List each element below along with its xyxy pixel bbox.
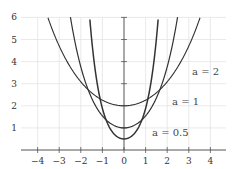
y-tick-label: 3: [11, 79, 17, 89]
y-tick-label: 2: [11, 101, 17, 111]
x-tick-label: 4: [208, 156, 214, 166]
y-tick-label: 4: [11, 57, 17, 67]
x-tick-label: −1: [96, 156, 109, 166]
label-a1: a = 1: [172, 96, 199, 107]
y-tick-label: 6: [11, 12, 17, 22]
x-tick-label: 0: [121, 156, 127, 166]
tick-labels: −4−3−2−101234123456: [11, 12, 213, 166]
x-tick-label: 1: [143, 156, 149, 166]
y-tick-label: 1: [11, 123, 17, 133]
label-a05: a = 0.5: [152, 127, 189, 138]
y-tick-label: 5: [11, 35, 17, 45]
label-a2: a = 2: [192, 66, 219, 77]
catenary-chart: −4−3−2−101234123456 a = 2 a = 1 a = 0.5: [0, 0, 239, 169]
x-tick-label: −4: [31, 156, 45, 166]
x-tick-label: −3: [53, 156, 67, 166]
x-tick-label: −2: [74, 156, 87, 166]
axes: [21, 17, 226, 153]
x-tick-label: 2: [164, 156, 170, 166]
x-tick-label: 3: [186, 156, 192, 166]
